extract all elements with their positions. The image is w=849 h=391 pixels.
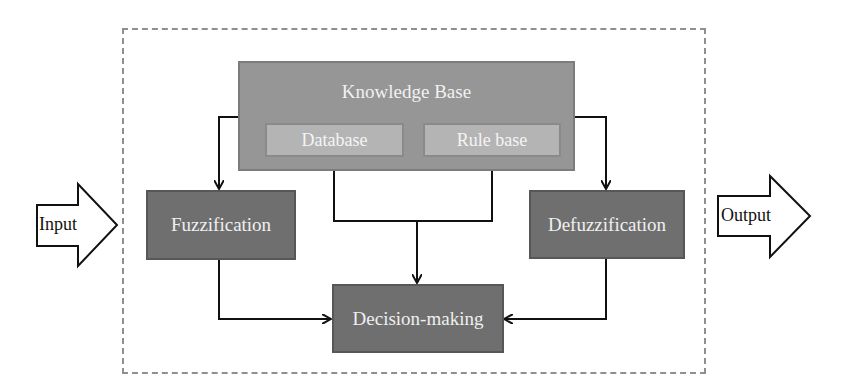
decision-making-box: Decision-making xyxy=(332,284,504,353)
fuzzification-box: Fuzzification xyxy=(146,190,296,260)
rule-base-box: Rule base xyxy=(423,123,561,157)
output-label: Output xyxy=(718,205,774,226)
input-label: Input xyxy=(38,214,78,235)
knowledge-base-label: Knowledge Base xyxy=(240,81,573,103)
database-box: Database xyxy=(265,123,404,157)
defuzzification-box: Defuzzification xyxy=(529,190,685,259)
